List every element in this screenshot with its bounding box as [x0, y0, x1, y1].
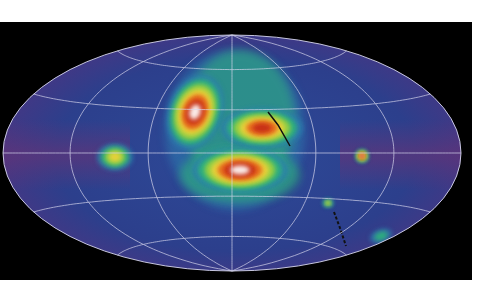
all-sky-map: [0, 0, 501, 296]
yellow-spot: [322, 198, 334, 207]
upper-right-cluster: [221, 107, 304, 148]
bright-blob: [355, 149, 369, 163]
central-lower-cloud: [192, 147, 289, 193]
left-plane-feature: [97, 143, 134, 171]
